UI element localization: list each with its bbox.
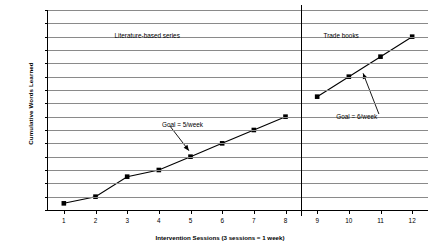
y-axis-title: Cumulative Words Learned: [27, 24, 34, 184]
gridline-y-18: [48, 90, 428, 91]
x-tick-mark: [96, 210, 97, 214]
data-point: [315, 94, 320, 99]
chart-container: Cumulative Words Learned 024681012141618…: [0, 0, 443, 252]
y-tick-mark: [45, 103, 48, 104]
x-tick-mark: [412, 210, 413, 214]
y-tick-mark: [45, 50, 48, 51]
x-tick-mark: [381, 210, 382, 214]
y-tick-mark: [45, 10, 48, 11]
gridline-y-16: [48, 103, 428, 104]
x-tick-mark: [286, 210, 287, 214]
series-line-1: [317, 37, 412, 97]
y-tick-mark: [45, 170, 48, 171]
x-tick-label-6: 6: [210, 218, 234, 224]
y-tick-mark: [45, 210, 48, 211]
y-tick-mark: [45, 63, 48, 64]
annotation-label-0: Goal = 5/week: [162, 121, 203, 128]
gridline-y-8: [48, 157, 428, 158]
x-tick-mark: [349, 210, 350, 214]
annotation-arrow-1: [363, 73, 379, 114]
x-tick-mark: [254, 210, 255, 214]
gridline-y-24: [48, 50, 428, 51]
gridline-y-0: [48, 210, 428, 211]
x-tick-mark: [159, 210, 160, 214]
x-axis-title: Intervention Sessions (3 sessions = 1 we…: [47, 234, 393, 241]
x-tick-mark: [191, 210, 192, 214]
gridline-y-28: [48, 23, 428, 24]
annotation-arrowhead-0: [184, 145, 189, 151]
x-tick-label-9: 9: [305, 218, 329, 224]
gridline-y-2: [48, 197, 428, 198]
x-tick-label-7: 7: [242, 218, 266, 224]
x-tick-label-4: 4: [147, 218, 171, 224]
data-point: [62, 201, 67, 206]
x-tick-label-5: 5: [179, 218, 203, 224]
x-tick-label-1: 1: [52, 218, 76, 224]
gridline-y-6: [48, 170, 428, 171]
annotation-label-1: Goal = 6/week: [336, 113, 377, 120]
data-point: [125, 174, 130, 179]
y-tick-mark: [45, 77, 48, 78]
gridline-y-22: [48, 63, 428, 64]
y-tick-mark: [45, 143, 48, 144]
y-tick-mark: [45, 157, 48, 158]
y-tick-mark: [45, 23, 48, 24]
y-tick-mark: [45, 90, 48, 91]
phase-label-0: Literature-based series: [115, 32, 180, 39]
y-tick-mark: [45, 197, 48, 198]
plot-area: 0246810121416182022242628301234567891011…: [47, 10, 428, 211]
x-tick-mark: [222, 210, 223, 214]
phase-label-1: Trade books: [324, 32, 359, 39]
gridline-y-4: [48, 183, 428, 184]
x-tick-label-10: 10: [337, 218, 361, 224]
x-tick-label-11: 11: [369, 218, 393, 224]
series-overlay: [48, 10, 428, 210]
gridline-y-10: [48, 143, 428, 144]
x-tick-label-8: 8: [274, 218, 298, 224]
y-tick-mark: [45, 117, 48, 118]
x-tick-mark: [64, 210, 65, 214]
x-tick-mark: [317, 210, 318, 214]
y-tick-mark: [45, 130, 48, 131]
x-tick-mark: [127, 210, 128, 214]
y-tick-mark: [45, 183, 48, 184]
x-tick-label-12: 12: [400, 218, 424, 224]
x-tick-label-2: 2: [84, 218, 108, 224]
gridline-y-20: [48, 77, 428, 78]
data-point: [378, 54, 383, 59]
x-tick-label-3: 3: [115, 218, 139, 224]
y-tick-mark: [45, 37, 48, 38]
gridline-y-30: [48, 10, 428, 11]
phase-divider-line: [301, 5, 302, 216]
gridline-y-26: [48, 37, 428, 38]
gridline-y-12: [48, 130, 428, 131]
